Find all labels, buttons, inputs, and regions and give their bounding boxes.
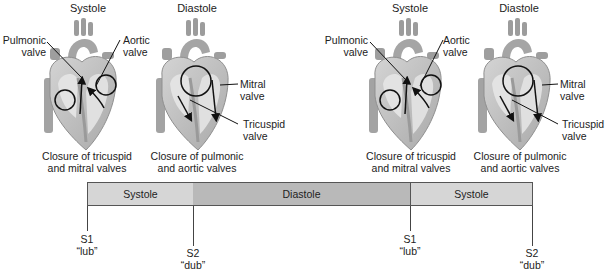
caption: Closure of tricuspidand mitral valves <box>366 150 456 174</box>
s1-marker-label: S1“lub” <box>76 233 97 257</box>
mitral-valve-label: Mitralvalve <box>240 78 266 102</box>
pulmonic-valve-label: Pulmonicvalve <box>322 34 368 58</box>
s2-marker-label: S2“dub” <box>181 247 206 270</box>
tricuspid-valve-label: Tricuspidvalve <box>562 118 604 142</box>
caption: Closure of pulmonicand aortic valves <box>151 150 244 174</box>
timeline-segment-systole: Systole <box>410 182 533 206</box>
s1-marker-label: S1“lub” <box>399 233 420 257</box>
timeline-segment-diastole: Diastole <box>193 182 411 206</box>
pulmonic-valve-label: Pulmonicvalve <box>2 34 46 58</box>
aortic-valve-label: Aorticvalve <box>123 34 150 58</box>
marker-tick <box>532 206 533 246</box>
marker-tick <box>193 206 194 246</box>
marker-tick <box>87 206 88 231</box>
leader-lines <box>472 0 572 140</box>
mitral-valve-label: Mitralvalve <box>560 78 586 102</box>
timeline-segment-systole: Systole <box>87 182 194 206</box>
aortic-valve-label: Aorticvalve <box>443 34 470 58</box>
s2-marker-label: S2“dub” <box>520 247 545 270</box>
caption: Closure of pulmonicand aortic valves <box>474 150 567 174</box>
caption: Closure of tricuspidand mitral valves <box>42 150 132 174</box>
marker-tick <box>410 206 411 231</box>
leader-lines <box>150 0 250 140</box>
leader-lines <box>0 0 160 120</box>
tricuspid-valve-label: Tricuspidvalve <box>243 118 285 142</box>
leader-lines <box>320 0 480 120</box>
